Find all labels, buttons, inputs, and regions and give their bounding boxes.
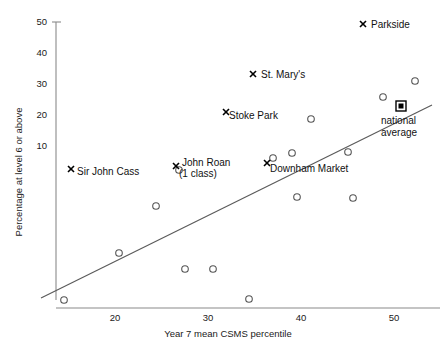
point-label-national-average-line2: average	[381, 127, 418, 138]
data-point-circle	[380, 94, 387, 101]
point-label-john-roan: John Roan	[182, 157, 230, 168]
x-tick-label-50: 50	[389, 312, 400, 323]
x-tick-label-30: 30	[203, 312, 214, 323]
plot-area: 50 40 30 20 10 20 30 40 50 Year 7 mean C…	[0, 0, 448, 351]
y-tick-label-50: 50	[36, 16, 47, 27]
data-point-cross-parkside	[360, 21, 366, 27]
data-point-cross-sir-john-cass	[68, 166, 74, 172]
point-label-john-roan-class: (1 class)	[179, 168, 217, 179]
y-tick-label-20: 20	[36, 109, 47, 120]
point-label-downham-market: Downham Market	[270, 163, 349, 174]
data-point-circle	[294, 194, 301, 201]
point-label-st-marys: St. Mary's	[261, 69, 305, 80]
y-axis-title: Percentage at level 6 or above	[13, 108, 24, 237]
x-tick-label-40: 40	[296, 312, 307, 323]
y-tick-label-30: 30	[36, 78, 47, 89]
data-point-circle	[153, 203, 160, 210]
x-axis-title: Year 7 mean CSMS percentile	[164, 328, 291, 339]
y-tick-label-40: 40	[36, 47, 47, 58]
data-point-circle	[116, 250, 123, 257]
point-label-sir-john-cass: Sir John Cass	[77, 166, 139, 177]
x-tick-label-20: 20	[110, 312, 121, 323]
data-point-circle	[210, 266, 217, 273]
trend-line	[41, 105, 432, 298]
data-point-cross-st-marys	[250, 71, 256, 77]
data-point-circle	[246, 296, 253, 303]
data-point-circle	[289, 150, 296, 157]
data-point-circle	[350, 195, 357, 202]
data-point-circle	[308, 116, 315, 123]
data-point-square-national-average	[396, 101, 406, 111]
point-label-national-average-line1: national	[381, 115, 416, 126]
data-point-circle	[412, 78, 419, 85]
point-label-parkside: Parkside	[371, 19, 410, 30]
y-tick-label-10: 10	[36, 140, 47, 151]
data-point-circle	[270, 155, 277, 162]
scatter-chart: 50 40 30 20 10 20 30 40 50 Year 7 mean C…	[0, 0, 448, 351]
data-point-circle	[182, 266, 189, 273]
data-point-circle	[345, 149, 352, 156]
data-point-circle	[61, 297, 68, 304]
point-label-stoke-park: Stoke Park	[229, 110, 279, 121]
